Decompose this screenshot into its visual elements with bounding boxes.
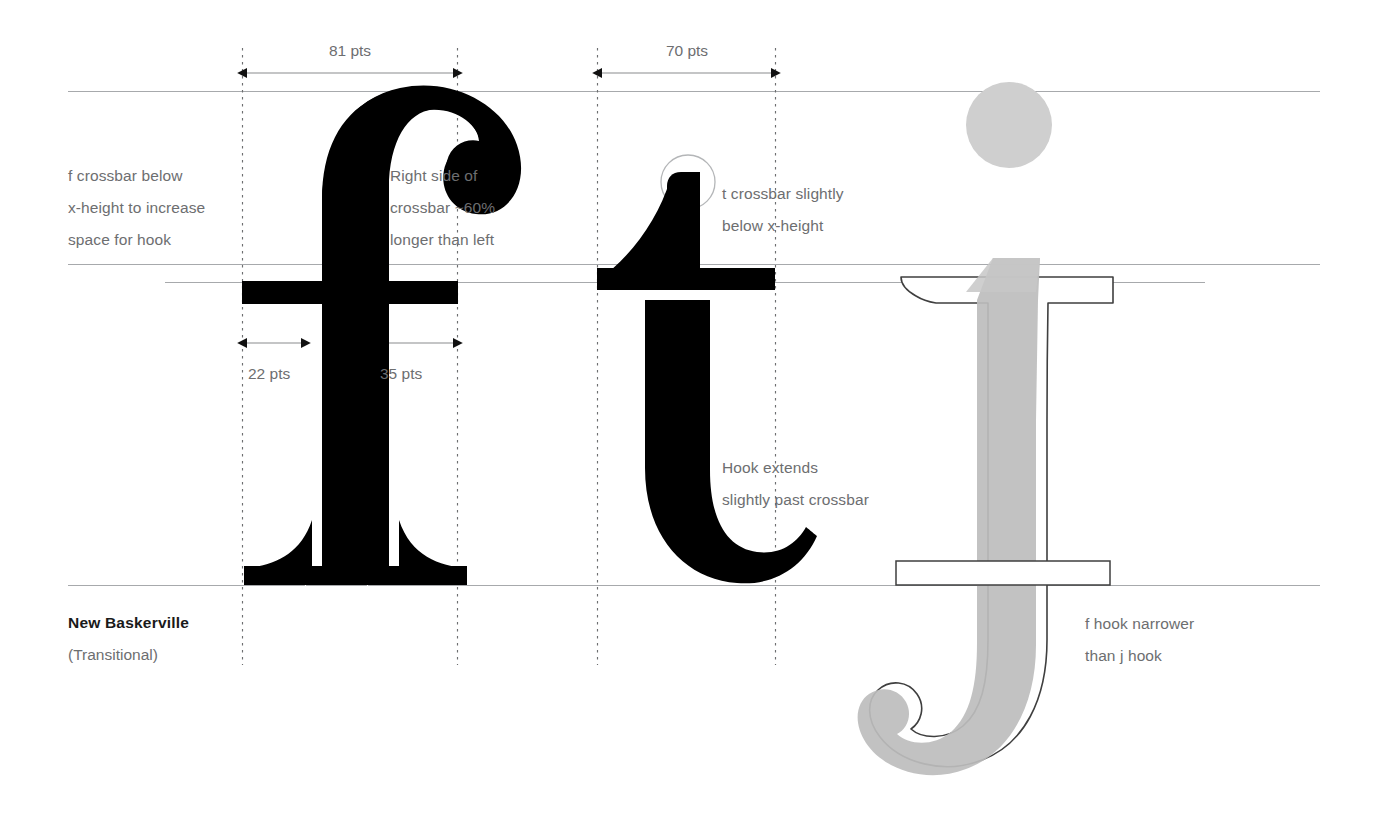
typeface-classification: (Transitional) bbox=[68, 640, 328, 670]
dimension-label-t-width: 70 pts bbox=[617, 42, 757, 60]
annotation-crossbar-ratio: Right side of crossbar ~60% longer than … bbox=[390, 160, 600, 256]
glyph-t-crossbar bbox=[597, 268, 775, 290]
typography-diagram: 81 pts 70 pts 22 pts 35 pts f crossbar b… bbox=[0, 0, 1385, 821]
annotation-f-crossbar: f crossbar below x-height to increase sp… bbox=[68, 160, 258, 256]
glyph-t-shoulder bbox=[597, 180, 670, 281]
annotation-t-crossbar: t crossbar slightly below x-height bbox=[722, 178, 942, 242]
glyph-t-apex bbox=[667, 172, 700, 281]
glyph-t-layer bbox=[0, 0, 1385, 821]
annotation-t-hook: Hook extends slightly past crossbar bbox=[722, 452, 972, 516]
glyph-t-stem-hook bbox=[645, 300, 817, 583]
dimension-label-crossbar-right: 35 pts bbox=[380, 365, 470, 383]
dimension-label-f-width: 81 pts bbox=[280, 42, 420, 60]
annotation-hook-compare: f hook narrower than j hook bbox=[1085, 608, 1315, 672]
typeface-name: New Baskerville bbox=[68, 608, 328, 638]
dimension-label-crossbar-left: 22 pts bbox=[248, 365, 338, 383]
